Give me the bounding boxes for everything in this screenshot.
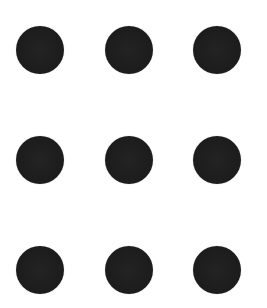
dot-r3-c1	[16, 246, 64, 294]
dot-r1-c1	[16, 26, 64, 74]
dot-r1-c2	[105, 26, 153, 74]
dot-r2-c2	[105, 136, 153, 184]
dot-grid	[0, 0, 267, 308]
dot-r2-c1	[16, 136, 64, 184]
dot-r3-c2	[105, 246, 153, 294]
dot-r1-c3	[193, 26, 241, 74]
dot-r2-c3	[193, 136, 241, 184]
dot-r3-c3	[193, 246, 241, 294]
